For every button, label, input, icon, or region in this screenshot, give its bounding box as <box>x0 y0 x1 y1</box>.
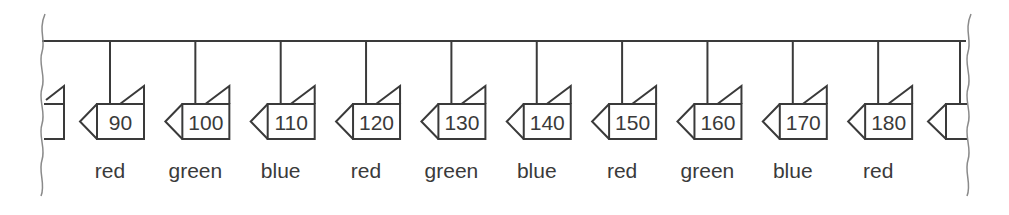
node-color-label: red <box>863 159 893 182</box>
next-flag-icon <box>461 86 485 104</box>
node-color-label: green <box>425 159 479 182</box>
prev-arrow-icon <box>336 104 353 139</box>
node-value: 130 <box>444 111 479 134</box>
break-line-right <box>967 14 971 196</box>
prev-arrow-icon <box>677 104 694 139</box>
node-color-label: blue <box>773 159 813 182</box>
node-list: 90red100green110blue120red130green140blu… <box>80 41 912 182</box>
linked-list-diagram: 90red100green110blue120red130green140blu… <box>0 0 1009 215</box>
prev-arrow-icon <box>507 104 524 139</box>
partial-node-right <box>928 41 967 139</box>
prev-arrow-icon <box>421 104 438 139</box>
next-flag-icon <box>291 86 315 104</box>
node-value: 170 <box>786 111 821 134</box>
list-node: 110blue <box>251 41 315 182</box>
list-node: 170blue <box>763 41 827 182</box>
node-value: 120 <box>359 111 394 134</box>
node-color-label: red <box>607 159 637 182</box>
next-flag-icon <box>120 86 144 104</box>
node-value: 160 <box>700 111 735 134</box>
list-node: 150red <box>592 41 656 182</box>
prev-arrow-icon <box>251 104 268 139</box>
node-value: 100 <box>188 111 223 134</box>
prev-arrow-icon <box>80 104 97 139</box>
node-value: 90 <box>109 111 132 134</box>
list-node: 160green <box>677 41 741 182</box>
prev-arrow-icon <box>763 104 780 139</box>
partial-node-left <box>44 86 64 139</box>
prev-arrow-icon <box>165 104 182 139</box>
next-flag-icon <box>632 86 656 104</box>
list-node: 140blue <box>507 41 571 182</box>
prev-arrow-icon <box>848 104 865 139</box>
next-flag-icon <box>376 86 400 104</box>
node-color-label: green <box>681 159 735 182</box>
next-flag-icon <box>205 86 229 104</box>
node-value: 110 <box>274 111 307 134</box>
next-flag-icon <box>888 86 912 104</box>
list-node: 120red <box>336 41 400 182</box>
node-value: 180 <box>871 111 906 134</box>
next-flag-icon <box>547 86 571 104</box>
next-flag-icon <box>803 86 827 104</box>
node-value: 140 <box>530 111 565 134</box>
node-color-label: red <box>95 159 125 182</box>
node-color-label: blue <box>261 159 301 182</box>
node-color-label: green <box>168 159 222 182</box>
list-node: 180red <box>848 41 912 182</box>
list-node: 90red <box>80 41 144 182</box>
list-node: 100green <box>165 41 229 182</box>
list-node: 130green <box>421 41 485 182</box>
next-flag-icon <box>717 86 741 104</box>
prev-arrow-icon <box>592 104 609 139</box>
node-color-label: red <box>351 159 381 182</box>
node-color-label: blue <box>517 159 557 182</box>
node-value: 150 <box>615 111 650 134</box>
